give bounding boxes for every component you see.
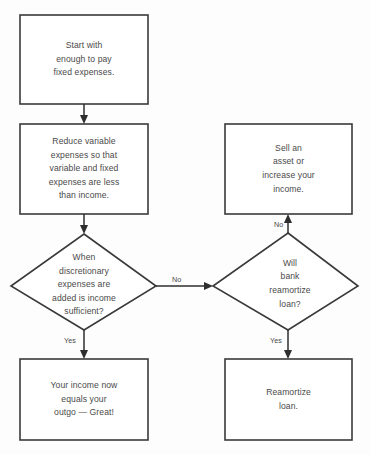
- node-start-fixed-expenses: [20, 15, 148, 104]
- node-income-sufficient-decision: [11, 234, 156, 330]
- arrowhead-reduce-to-decision: [80, 225, 88, 234]
- node-sell-asset-increase-income: [225, 124, 352, 214]
- node-income-equals-outgo: [20, 359, 148, 440]
- edge-label-decision-yes: Yes: [64, 336, 76, 345]
- node-reamortize-loan: [225, 359, 352, 440]
- node-bank-reamortize-decision: [213, 233, 358, 330]
- edge-label-decision-no: No: [172, 275, 181, 284]
- arrowhead-bank-no: [284, 214, 292, 223]
- arrowhead-decision-no: [204, 282, 213, 290]
- arrowhead-bank-yes: [284, 350, 292, 359]
- arrowhead-decision-yes: [80, 350, 88, 359]
- flowchart-graphics: [0, 0, 370, 455]
- flowchart-canvas: Start with enough to pay fixed expenses.…: [0, 0, 370, 455]
- arrowhead-start-to-reduce: [80, 115, 88, 124]
- node-reduce-variable-expenses: [20, 124, 148, 214]
- edge-label-bank-yes: Yes: [270, 336, 282, 345]
- edge-label-bank-no: No: [274, 220, 283, 229]
